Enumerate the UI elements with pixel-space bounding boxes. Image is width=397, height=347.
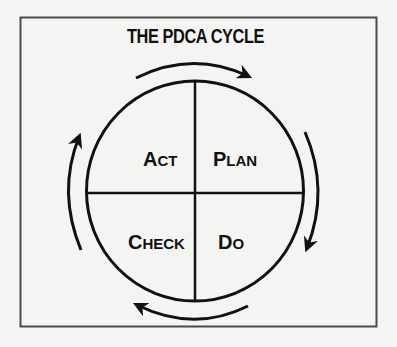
arrow-bottom-icon	[137, 305, 248, 319]
pdca-diagram: THE PDCA CYCLE ACT PLAN CHECK DO	[0, 0, 397, 347]
quadrant-label-do: DO	[218, 231, 244, 253]
quadrant-label-check: CHECK	[128, 231, 185, 253]
arrow-right-icon	[305, 132, 318, 248]
quadrant-label-act: ACT	[143, 148, 177, 170]
arrow-top-icon	[136, 63, 248, 78]
arrow-left-icon	[68, 137, 81, 250]
quadrant-label-plan: PLAN	[213, 148, 257, 170]
diagram-title: THE PDCA CYCLE	[127, 25, 264, 47]
